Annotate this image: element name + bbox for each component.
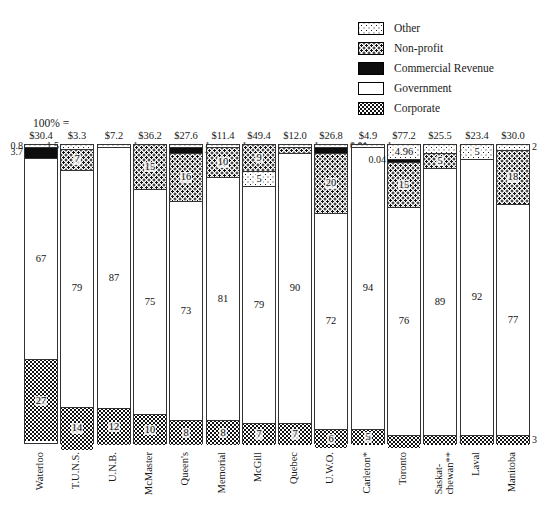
segment-value-label: 79 (253, 300, 266, 311)
segment-value-label: 5 (364, 432, 371, 443)
bar-segment-government[interactable]: 79 (61, 171, 93, 408)
bar-segment-corporate[interactable]: 5 (352, 430, 384, 445)
bar-segment-corporate[interactable]: 7 (279, 424, 311, 445)
bar-segment-corporate[interactable] (388, 436, 420, 448)
bar-segment-corporate[interactable] (461, 436, 493, 445)
stacked-bar[interactable]: 157510 (133, 144, 167, 444)
stacked-bar[interactable]: 20726 (314, 144, 348, 444)
stacked-bar[interactable]: 10818 (206, 144, 240, 444)
bar-segment-non-profit[interactable]: 9 (243, 145, 275, 172)
stacked-bar[interactable]: 95797 (242, 144, 276, 444)
bar-segment-government[interactable]: 76 (388, 208, 420, 436)
bar-segment-corporate[interactable]: 12 (98, 409, 130, 445)
category-label: Laval (470, 452, 481, 476)
bar-segment-corporate[interactable]: 8 (170, 421, 202, 445)
segment-callout-label: 0.04 (367, 154, 386, 165)
bar-segment-government[interactable]: 77 (497, 205, 529, 436)
bar-segment-other[interactable]: 4.96 (388, 145, 420, 160)
bar-segment-corporate[interactable]: 7 (243, 424, 275, 445)
bar-segment-corporate[interactable] (424, 436, 456, 445)
stacked-bar[interactable]: 907 (278, 144, 312, 444)
bar-segment-non-profit[interactable]: 15 (388, 163, 420, 208)
category-label-line: Laval (470, 452, 481, 476)
segment-value-label: 18 (507, 172, 520, 183)
segment-value-label: 16 (180, 172, 193, 183)
segment-value-label: 7 (73, 154, 80, 165)
segment-value-label: 8 (219, 428, 226, 439)
bar-segment-corporate[interactable]: 27 (25, 360, 57, 441)
category-label: Memorial (216, 452, 227, 493)
category-label: McMaster (143, 452, 154, 495)
bar-segment-non-profit[interactable]: 10 (207, 148, 239, 178)
segment-value-label: 15 (398, 180, 411, 191)
bar-segment-other[interactable]: 5 (243, 172, 275, 187)
segment-value-label: 87 (108, 273, 121, 284)
bar-segment-corporate[interactable] (497, 436, 529, 445)
category-label: Quebec (288, 452, 299, 484)
stacked-bar[interactable]: 589 (423, 144, 457, 444)
category-label-line: Waterloo (34, 452, 45, 490)
category-label-line: chewan** (444, 452, 455, 495)
bar-segment-non-profit[interactable]: 15 (134, 145, 166, 190)
bar-segment-government[interactable]: 67 (25, 159, 57, 360)
segment-value-label: 8 (182, 428, 189, 439)
bar-segment-corporate[interactable]: 10 (134, 415, 166, 445)
segment-value-label: 79 (71, 283, 84, 294)
bar-segment-other[interactable] (424, 145, 456, 154)
category-label: Carleton* (361, 452, 372, 493)
stacked-bar[interactable]: 16738 (169, 144, 203, 444)
segment-value-label: 10 (217, 157, 230, 168)
segment-value-label: 75 (144, 297, 157, 308)
category-label: Waterloo (34, 452, 45, 490)
bar-segment-non-profit[interactable]: 18 (497, 151, 529, 205)
bar-segment-corporate[interactable]: 6 (315, 430, 347, 448)
bar-segment-non-profit[interactable]: 5 (424, 154, 456, 169)
bar-segment-government[interactable]: 72 (315, 214, 347, 430)
category-label-line: McMaster (143, 452, 154, 495)
segment-callout-label: 3.7 (4, 146, 23, 157)
segment-callout-label: 1.5 (40, 140, 59, 151)
bar-segment-non-profit[interactable]: 20 (315, 154, 347, 214)
segment-value-label: 7 (255, 429, 262, 440)
category-label-line: T.U.N.S. (70, 452, 81, 489)
bar-segment-government[interactable]: 89 (424, 169, 456, 436)
bar-segment-government[interactable]: 94 (352, 148, 384, 430)
stacked-bar[interactable]: 945 (351, 144, 385, 444)
bar-segment-government[interactable]: 87 (98, 148, 130, 409)
bar-total-label: $25.5 (419, 130, 461, 141)
segment-value-label: 20 (325, 178, 338, 189)
segment-value-label: 89 (434, 297, 447, 308)
category-label-line: Carleton* (361, 452, 372, 493)
stacked-bar-chart-plot: $30.40.83.76727Waterloo$3.31.577914T.U.N… (0, 0, 555, 529)
bar-segment-government[interactable]: 79 (243, 187, 275, 424)
bar-segment-corporate[interactable]: 8 (207, 421, 239, 445)
stacked-bar[interactable]: 592 (460, 144, 494, 444)
bar-segment-non-profit[interactable]: 16 (170, 154, 202, 202)
segment-value-label: 7 (291, 429, 298, 440)
segment-callout-label: 2 (532, 141, 537, 152)
category-label-line: Quebec (288, 452, 299, 484)
bar-segment-corporate[interactable]: 14 (61, 408, 93, 450)
stacked-bar[interactable]: 8712 (97, 144, 131, 444)
segment-value-label: 76 (398, 316, 411, 327)
segment-value-label: 5 (436, 156, 443, 167)
bar-segment-government[interactable]: 75 (134, 190, 166, 415)
bar-segment-government[interactable]: 73 (170, 202, 202, 421)
segment-value-label: 4.96 (394, 147, 414, 158)
bar-total-label: $27.6 (165, 130, 207, 141)
bar-segment-non-profit[interactable]: 7 (61, 150, 93, 171)
segment-value-label: 14 (71, 423, 84, 434)
category-label: Queen's (179, 452, 190, 485)
stacked-bar[interactable]: 1877 (496, 144, 530, 444)
category-label: U.N.B. (107, 452, 118, 482)
bar-segment-government[interactable]: 81 (207, 178, 239, 421)
segment-value-label: 77 (507, 315, 520, 326)
bar-segment-government[interactable]: 92 (461, 160, 493, 436)
stacked-bar[interactable]: 4.961576 (387, 144, 421, 444)
stacked-bar[interactable]: 6727 (24, 144, 58, 444)
category-label-line: U.N.B. (107, 452, 118, 482)
bar-segment-government[interactable]: 90 (279, 154, 311, 424)
stacked-bar[interactable]: 77914 (60, 144, 94, 444)
segment-value-label: 67 (35, 254, 48, 265)
bar-segment-other[interactable]: 5 (461, 145, 493, 160)
